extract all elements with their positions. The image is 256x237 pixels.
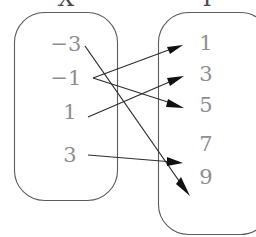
codomain-set-label: Y <box>198 0 215 11</box>
mapping-diagram: X Y −3 −1 1 3 1 3 5 7 9 <box>0 0 256 237</box>
codomain-element-2: 5 <box>199 93 212 117</box>
domain-element-0: −3 <box>51 32 82 56</box>
domain-element-1: −1 <box>51 66 82 90</box>
map-arrow--1-to-1 <box>93 45 183 78</box>
domain-element-2: 1 <box>63 100 76 124</box>
map-arrow-1-to-3 <box>88 76 184 117</box>
codomain-element-3: 7 <box>199 132 212 156</box>
map-arrow-3-to-7 <box>88 155 183 166</box>
map-arrow--3-to-9 <box>85 46 190 196</box>
codomain-element-0: 1 <box>199 31 212 55</box>
domain-element-3: 3 <box>63 143 76 167</box>
domain-set-label: X <box>58 0 75 11</box>
diagram-canvas: X Y −3 −1 1 3 1 3 5 7 9 <box>0 0 256 237</box>
codomain-element-4: 9 <box>199 165 212 189</box>
codomain-element-1: 3 <box>199 62 212 86</box>
